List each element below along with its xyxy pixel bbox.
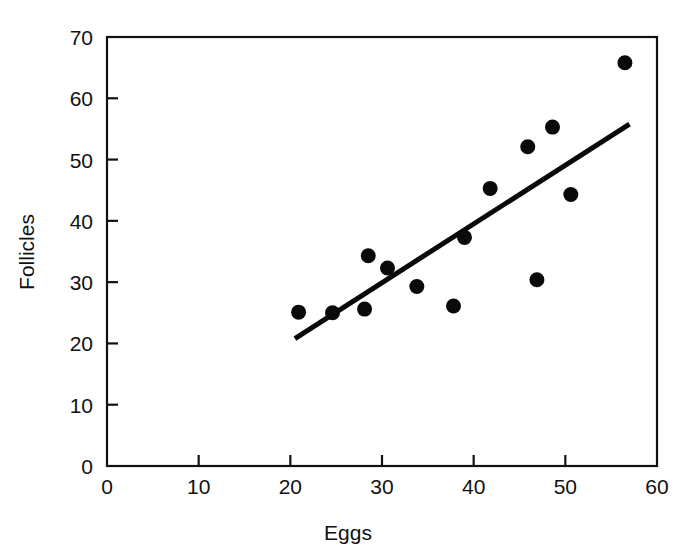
y-tick-label-60: 60 [70,87,93,110]
data-points [291,55,632,320]
y-tick-label-10: 10 [70,394,93,417]
data-point-4 [380,261,395,276]
y-tick-label-70: 70 [70,26,93,49]
x-tick-label-0: 0 [101,475,113,498]
data-point-9 [520,139,535,154]
x-axis-tick-labels: 0102030405060 [101,475,669,498]
x-tick-label-60: 60 [645,475,668,498]
plot-box-frame [107,37,657,466]
data-point-8 [483,181,498,196]
y-tick-label-30: 30 [70,271,93,294]
data-point-13 [617,55,632,70]
x-tick-label-50: 50 [554,475,577,498]
y-tick-label-0: 0 [81,455,93,478]
axes-frame [107,37,657,466]
x-axis-title: Eggs [324,521,372,544]
y-axis-tick-labels: 010203040506070 [70,26,93,478]
data-point-6 [446,299,461,314]
data-point-12 [563,187,578,202]
y-axis-title: Follicles [15,214,38,290]
data-point-1 [325,305,340,320]
data-point-11 [545,120,560,135]
data-point-2 [357,302,372,317]
plot-canvas: 0102030405060 010203040506070 Eggs Folli… [0,0,696,558]
x-tick-label-10: 10 [187,475,210,498]
data-point-10 [529,272,544,287]
x-tick-label-30: 30 [370,475,393,498]
data-point-3 [361,248,376,263]
x-axis-ticks [199,455,566,466]
y-axis-ticks [107,98,118,404]
y-tick-label-40: 40 [70,210,93,233]
data-point-0 [291,305,306,320]
scatter-plot-figure: 0102030405060 010203040506070 Eggs Folli… [0,0,696,558]
data-point-7 [457,230,472,245]
x-tick-label-40: 40 [462,475,485,498]
y-tick-label-20: 20 [70,332,93,355]
data-point-5 [409,279,424,294]
y-tick-label-50: 50 [70,149,93,172]
x-tick-label-20: 20 [279,475,302,498]
